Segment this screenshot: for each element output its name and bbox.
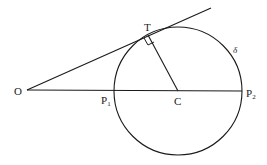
label-delta: δ	[233, 45, 238, 55]
secant-line-OP2	[27, 90, 242, 91]
label-P2: P2	[246, 87, 256, 101]
radius-CT	[148, 35, 178, 91]
label-T: T	[144, 21, 151, 33]
label-P1: P1	[101, 94, 111, 108]
geometry-diagram: O T C P1 P2 δ	[0, 0, 267, 165]
label-C: C	[174, 95, 181, 107]
label-O: O	[14, 85, 22, 97]
tangent-line-OT	[27, 8, 211, 90]
